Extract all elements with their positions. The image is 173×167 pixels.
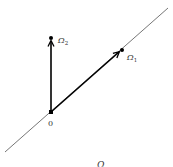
vector-diagram: 0 Ω2 Ω1 Ω bbox=[0, 0, 173, 167]
omega1-label: Ω1 bbox=[126, 53, 137, 63]
omega2-label: Ω2 bbox=[57, 36, 68, 46]
vector-omega1 bbox=[51, 52, 119, 112]
bottom-omega-label: Ω bbox=[96, 160, 105, 167]
omega1-point bbox=[120, 48, 124, 52]
origin-label: 0 bbox=[48, 119, 53, 128]
omega2-point bbox=[49, 36, 53, 40]
origin-point bbox=[49, 110, 53, 114]
